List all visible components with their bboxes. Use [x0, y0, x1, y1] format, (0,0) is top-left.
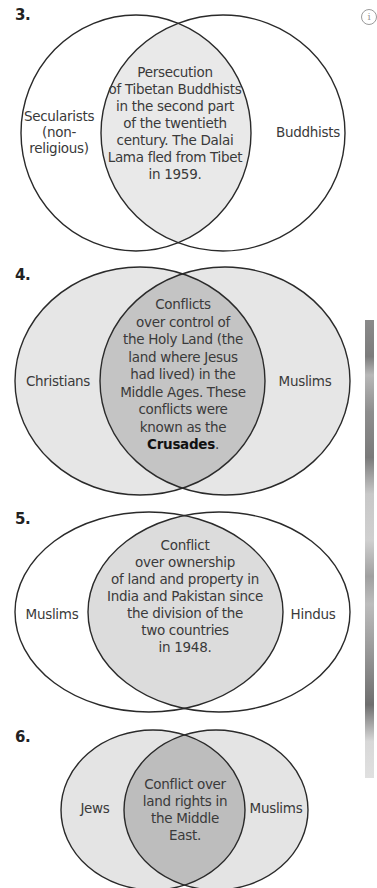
venn-6-left-label: Jews	[70, 800, 120, 816]
overlap-line: land where Jesus	[103, 349, 263, 367]
overlap-line: the Middle	[128, 810, 242, 827]
diagram-number-3: 3.	[15, 6, 30, 24]
venn-5-right-label: Hindus	[286, 606, 340, 622]
diagram-number-5: 5.	[15, 510, 30, 528]
overlap-line: of land and property in	[90, 571, 280, 588]
diagram-number-6: 6.	[15, 728, 30, 746]
overlap-line: East.	[128, 827, 242, 844]
overlap-line: over ownership	[90, 554, 280, 571]
venn-6-overlap-text: Conflict over land rights in the Middle …	[128, 776, 242, 844]
venn-6-right-label: Muslims	[247, 800, 305, 816]
period: .	[215, 436, 219, 452]
overlap-line: India and Pakistan since	[90, 588, 280, 605]
left-label-line: Secularists	[21, 108, 97, 124]
left-label-line: (non-	[21, 124, 97, 140]
left-label-line: religious)	[21, 140, 97, 156]
overlap-line: in the second part	[100, 98, 250, 115]
overlap-line: the Holy Land (the	[103, 331, 263, 349]
overlap-line: of Tibetan Buddhists	[100, 81, 250, 98]
diagram-number-4: 4.	[15, 266, 30, 284]
overlap-line: had lived) in the	[103, 366, 263, 384]
overlap-line: Conflict	[90, 537, 280, 554]
overlap-line: Lama fled from Tibet	[100, 149, 250, 166]
overlap-line: Conflicts	[103, 296, 263, 314]
crusades-term: Crusades	[147, 436, 215, 452]
venn-4-right-label: Muslims	[272, 373, 338, 389]
venn-3-right-label: Buddhists	[272, 124, 344, 140]
side-photo	[365, 320, 374, 778]
overlap-line: Persecution	[100, 64, 250, 81]
overlap-line: land rights in	[128, 793, 242, 810]
overlap-line: Middle Ages. These	[103, 384, 263, 402]
venn-3-left-label: Secularists (non- religious)	[21, 108, 97, 156]
venn-4-left-label: Christians	[22, 373, 94, 389]
overlap-line: in 1948.	[90, 639, 280, 656]
overlap-line: of the twentieth	[100, 115, 250, 132]
overlap-line: conflicts were	[103, 401, 263, 419]
info-icon: i	[361, 9, 377, 25]
venn-5-left-label: Muslims	[22, 606, 82, 622]
overlap-line: known as the	[103, 419, 263, 437]
overlap-line-crusades: Crusades.	[103, 436, 263, 454]
overlap-line: Conflict over	[128, 776, 242, 793]
venn-3-overlap-text: Persecution of Tibetan Buddhists in the …	[100, 64, 250, 183]
venn-4-overlap-text: Conflicts over control of the Holy Land …	[103, 296, 263, 454]
overlap-line: in 1959.	[100, 166, 250, 183]
overlap-line: over control of	[103, 314, 263, 332]
venn-5-overlap-text: Conflict over ownership of land and prop…	[90, 537, 280, 656]
overlap-line: two countries	[90, 622, 280, 639]
overlap-line: the division of the	[90, 605, 280, 622]
overlap-line: century. The Dalai	[100, 132, 250, 149]
